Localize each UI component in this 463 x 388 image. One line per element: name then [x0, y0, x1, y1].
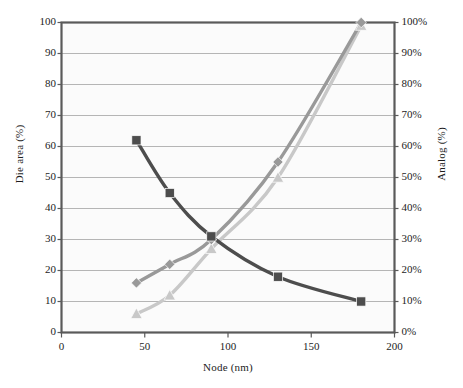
x-tick-label: 0	[37, 340, 87, 352]
data-point-square	[357, 297, 366, 306]
y-tick-label-right: 100%	[402, 15, 448, 27]
data-point-square	[273, 272, 282, 281]
y-tick-label-left: 30	[14, 232, 56, 244]
y-tick-label-left: 90	[14, 46, 56, 58]
x-tick-label: 150	[286, 340, 336, 352]
data-point-square	[165, 188, 174, 197]
y-axis-title-left: Die area (%)	[13, 109, 25, 199]
y-tick-label-left: 10	[14, 294, 56, 306]
y-tick-label-left: 20	[14, 263, 56, 275]
x-axis-title: Node (nm)	[61, 361, 395, 373]
y-tick-label-right: 30%	[402, 232, 448, 244]
y-tick-label-right: 10%	[402, 294, 448, 306]
y-tick-label-right: 90%	[402, 46, 448, 58]
y-tick-label-left: 60	[14, 139, 56, 151]
y-tick-label-right: 20%	[402, 263, 448, 275]
figure-caption	[28, 376, 458, 387]
figure-container: Die area (%) Analog (%) Node (nm) 010203…	[0, 0, 463, 388]
x-tick-label: 100	[203, 340, 253, 352]
y-tick-label-right: 0%	[402, 325, 448, 337]
y-tick-label-right: 80%	[402, 77, 448, 89]
y-tick-label-right: 50%	[402, 170, 448, 182]
y-tick-label-left: 80	[14, 77, 56, 89]
y-tick-label-right: 40%	[402, 201, 448, 213]
y-tick-label-left: 70	[14, 108, 56, 120]
y-tick-label-left: 40	[14, 201, 56, 213]
data-point-square	[207, 232, 216, 241]
x-tick-label: 50	[120, 340, 170, 352]
y-tick-label-right: 60%	[402, 139, 448, 151]
y-axis-title-right: Analog (%)	[435, 109, 447, 199]
y-tick-label-left: 100	[14, 15, 56, 27]
data-point-square	[132, 136, 141, 145]
y-tick-label-right: 70%	[402, 108, 448, 120]
x-tick-label: 200	[370, 340, 420, 352]
chart-plot-area	[0, 0, 463, 388]
y-tick-label-left: 0	[14, 325, 56, 337]
y-tick-label-left: 50	[14, 170, 56, 182]
